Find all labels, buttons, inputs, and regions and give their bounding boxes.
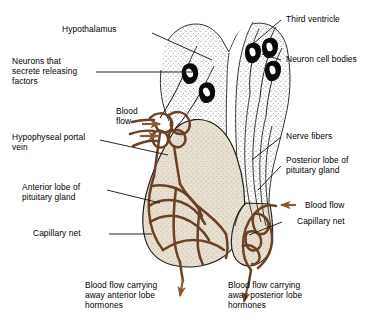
label-blood-flow-carrying-away-anterior-lobe-hormones: Blood flow carrying away anterior lobe h… (85, 280, 157, 311)
label-nerve-fibers: Nerve fibers (286, 131, 332, 141)
blood-flow-arrow-out-anterior (180, 279, 183, 296)
label-posterior-lobe-of-pituitary-gland: Posterior lobe of pituitary gland (286, 155, 348, 175)
label-hypothalamus: Hypothalamus (62, 24, 117, 34)
label-capillary-net-right: Capillary net (297, 216, 345, 226)
label-blood-flow-right: Blood flow (305, 200, 344, 210)
label-blood-flow-carrying-away-posterior-lobe-hormones: Blood flow carrying away posterior lobe … (228, 280, 302, 311)
label-neurons-that-secrete-releasing-factors: Neurons that secrete releasing factors (12, 56, 77, 87)
label-blood-flow-left: Blood flow (116, 106, 138, 126)
label-capillary-net-left: Capillary net (33, 228, 81, 238)
label-neuron-cell-bodies: Neuron cell bodies (286, 54, 357, 64)
figure-canvas: Hypothalamus Neurons that secrete releas… (0, 0, 388, 325)
label-hypophyseal-portal-vein: Hypophyseal portal vein (12, 132, 85, 152)
label-third-ventricle: Third ventricle (286, 14, 340, 24)
label-anterior-lobe-of-pituitary-gland: Anterior lobe of pituitary gland (22, 182, 80, 202)
